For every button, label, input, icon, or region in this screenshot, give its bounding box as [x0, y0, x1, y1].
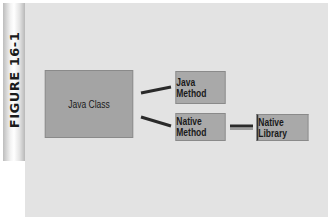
connector-class-to-native-method: [141, 117, 171, 126]
connector-class-to-java-method: [141, 87, 171, 93]
node-label: Native Library: [258, 117, 307, 139]
node-label: Java Class: [68, 99, 110, 110]
node-label: Native Method: [176, 116, 224, 138]
node-java-class: Java Class: [45, 70, 133, 138]
node-native-method: Native Method: [175, 113, 225, 141]
node-java-method: Java Method: [175, 71, 225, 104]
node-label: Java Method: [176, 77, 224, 99]
node-native-library: Native Library: [257, 114, 309, 141]
